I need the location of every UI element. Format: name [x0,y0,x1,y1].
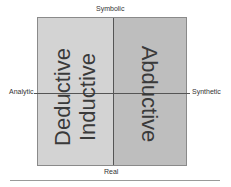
quadrant-diagram: Deductive Inductive Abductive [37,17,187,166]
axis-label-right: Synthetic [192,88,221,95]
axis-label-bottom: Real [104,168,118,175]
label-abductive: Abductive [138,46,160,143]
bottom-divider [10,180,220,181]
label-inductive: Inductive [77,53,99,141]
axis-label-top: Symbolic [96,5,124,12]
vertical-axis-line [113,18,114,165]
axis-label-left: Analytic [9,88,34,95]
label-deductive: Deductive [52,48,74,146]
